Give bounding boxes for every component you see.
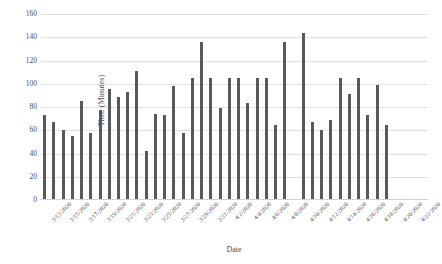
x-axis-ticks: 3/13/20203/15/20203/17/20203/19/20203/21…	[40, 201, 428, 243]
bar-slot[interactable]	[206, 14, 215, 199]
bar-slot[interactable]	[326, 14, 335, 199]
bar-slot[interactable]	[410, 14, 419, 199]
bar[interactable]	[99, 110, 102, 200]
bar[interactable]	[339, 78, 342, 199]
y-tick-label: 140	[3, 34, 37, 42]
bar[interactable]	[108, 89, 111, 199]
bar[interactable]	[145, 151, 148, 199]
bar[interactable]	[348, 94, 351, 199]
bar-slot[interactable]	[382, 14, 391, 199]
bar[interactable]	[117, 97, 120, 199]
y-tick-label: 0	[3, 196, 37, 204]
bar-slot[interactable]	[142, 14, 151, 199]
bar[interactable]	[182, 133, 185, 199]
bar-slot[interactable]	[95, 14, 104, 199]
bar-slot[interactable]	[363, 14, 372, 199]
bar-slot[interactable]	[400, 14, 409, 199]
bar-slot[interactable]	[373, 14, 382, 199]
bar[interactable]	[246, 103, 249, 199]
bar-slot[interactable]	[317, 14, 326, 199]
bar-slot[interactable]	[299, 14, 308, 199]
bar[interactable]	[228, 78, 231, 199]
bar-slot[interactable]	[114, 14, 123, 199]
bar-slot[interactable]	[123, 14, 132, 199]
bar[interactable]	[209, 78, 212, 199]
bar-slot[interactable]	[105, 14, 114, 199]
bar[interactable]	[135, 71, 138, 199]
bar-slot[interactable]	[243, 14, 252, 199]
bar[interactable]	[302, 33, 305, 199]
bar-slot[interactable]	[77, 14, 86, 199]
x-tick-label: 4/8/2020	[289, 201, 309, 221]
x-axis-title: Date	[40, 245, 428, 254]
bar-slot[interactable]	[262, 14, 271, 199]
bar-slot[interactable]	[151, 14, 160, 199]
bar-slot[interactable]	[160, 14, 169, 199]
bar[interactable]	[329, 120, 332, 199]
bar-slot[interactable]	[234, 14, 243, 199]
y-tick-label: 60	[3, 127, 37, 135]
bar-slot[interactable]	[336, 14, 345, 199]
bar[interactable]	[311, 122, 314, 199]
y-tick-label: 120	[3, 57, 37, 65]
bar[interactable]	[89, 133, 92, 199]
bar[interactable]	[237, 78, 240, 199]
bar[interactable]	[320, 130, 323, 199]
y-tick-label: 20	[3, 173, 37, 181]
bar[interactable]	[256, 78, 259, 199]
bar-slot[interactable]	[271, 14, 280, 199]
bar[interactable]	[385, 125, 388, 199]
bar[interactable]	[172, 86, 175, 199]
y-tick-label: 160	[3, 10, 37, 18]
bar[interactable]	[357, 78, 360, 199]
bar[interactable]	[163, 115, 166, 199]
x-tick-label: 4/6/2020	[271, 201, 291, 221]
bar[interactable]	[62, 130, 65, 199]
bar[interactable]	[43, 115, 46, 199]
bar-slot[interactable]	[419, 14, 428, 199]
bar-slot[interactable]	[225, 14, 234, 199]
bar-slot[interactable]	[289, 14, 298, 199]
bar[interactable]	[71, 136, 74, 199]
y-tick-label: 100	[3, 80, 37, 88]
bar[interactable]	[200, 42, 203, 199]
plot-area	[40, 14, 428, 200]
bar-slot[interactable]	[345, 14, 354, 199]
bar[interactable]	[154, 114, 157, 199]
y-tick-label: 80	[3, 103, 37, 111]
y-axis-ticks: 020406080100120140160	[0, 14, 37, 200]
bar-slot[interactable]	[49, 14, 58, 199]
bar[interactable]	[52, 122, 55, 199]
bar[interactable]	[265, 78, 268, 199]
bar-slot[interactable]	[354, 14, 363, 199]
bar-slot[interactable]	[188, 14, 197, 199]
bar[interactable]	[80, 101, 83, 199]
plot-wrapper	[40, 14, 428, 200]
bar-slot[interactable]	[86, 14, 95, 199]
bar[interactable]	[191, 78, 194, 199]
y-tick-label: 40	[3, 150, 37, 158]
bar-slot[interactable]	[391, 14, 400, 199]
bar-slot[interactable]	[308, 14, 317, 199]
bar-slot[interactable]	[197, 14, 206, 199]
bar-slot[interactable]	[68, 14, 77, 199]
bar-slot[interactable]	[280, 14, 289, 199]
bar[interactable]	[274, 125, 277, 199]
bar-slot[interactable]	[252, 14, 261, 199]
bar[interactable]	[366, 115, 369, 199]
bar-slot[interactable]	[179, 14, 188, 199]
bar[interactable]	[219, 108, 222, 199]
bar-slot[interactable]	[132, 14, 141, 199]
bar[interactable]	[376, 85, 379, 199]
bar[interactable]	[283, 42, 286, 199]
bar-slot[interactable]	[40, 14, 49, 199]
bar[interactable]	[126, 92, 129, 199]
x-tick-label: 4/4/2020	[252, 201, 272, 221]
bar-slot[interactable]	[169, 14, 178, 199]
bar-slot[interactable]	[216, 14, 225, 199]
bars-layer	[40, 14, 428, 199]
bar-slot[interactable]	[58, 14, 67, 199]
